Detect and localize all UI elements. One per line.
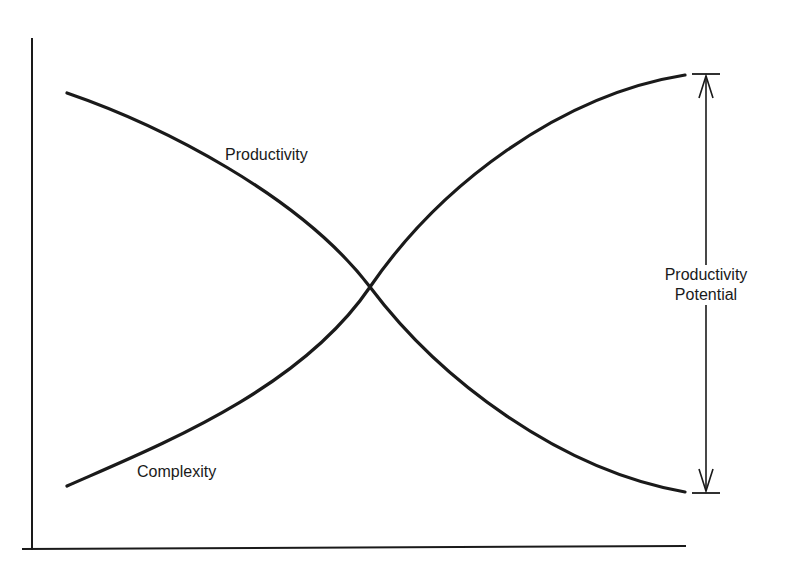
x-axis <box>22 546 686 549</box>
productivity-curve <box>67 93 685 492</box>
complexity-curve <box>67 75 685 486</box>
productivity-potential-line1: Productivity <box>665 265 748 285</box>
productivity-label: Productivity <box>225 147 308 163</box>
productivity-potential-label: Productivity Potential <box>663 265 750 305</box>
productivity-potential-line2: Potential <box>665 285 748 305</box>
complexity-label: Complexity <box>137 464 216 480</box>
